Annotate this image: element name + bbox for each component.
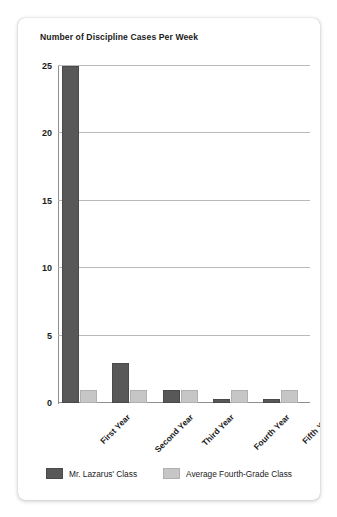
legend-item[interactable]: Mr. Lazarus' Class [46, 468, 137, 479]
y-tick-label-20: 20 [42, 128, 52, 138]
bar-group [112, 66, 147, 403]
plot-area [58, 66, 310, 403]
chart-legend: Mr. Lazarus' ClassAverage Fourth-Grade C… [18, 468, 320, 479]
bar [263, 399, 280, 403]
bar [80, 390, 97, 403]
chart-title: Number of Discipline Cases Per Week [40, 32, 198, 42]
legend-label: Average Fourth-Grade Class [186, 469, 292, 479]
legend-label: Mr. Lazarus' Class [69, 469, 137, 479]
y-tick-label-25: 25 [42, 61, 52, 71]
bar-group [213, 66, 248, 403]
bar [130, 390, 147, 403]
chart-card: Number of Discipline Cases Per Week 0510… [18, 18, 320, 500]
x-tick-label: Second Year [152, 412, 195, 455]
legend-swatch [46, 468, 63, 479]
legend-item[interactable]: Average Fourth-Grade Class [163, 468, 292, 479]
x-tick-label: Fifth Year [300, 412, 320, 446]
x-tick-label: First Year [98, 412, 132, 446]
bar [181, 390, 198, 403]
bar [112, 363, 129, 403]
x-axis-tick-labels: First YearSecond YearThird YearFourth Ye… [58, 406, 310, 466]
bar-group [62, 66, 97, 403]
x-tick-label: Third Year [200, 412, 236, 448]
bar [281, 390, 298, 403]
y-tick-label-5: 5 [47, 331, 52, 341]
y-tick-label-10: 10 [42, 263, 52, 273]
y-tick-label-15: 15 [42, 196, 52, 206]
y-tick-label-0: 0 [47, 398, 52, 408]
bar-group [163, 66, 198, 403]
bar [62, 66, 79, 403]
bar [163, 390, 180, 403]
bar-group [263, 66, 298, 403]
x-tick-label: Fourth Year [252, 412, 292, 452]
bar [231, 390, 248, 403]
y-axis-tick-labels: 0510152025 [18, 18, 52, 500]
bar [213, 399, 230, 403]
legend-swatch [163, 468, 180, 479]
